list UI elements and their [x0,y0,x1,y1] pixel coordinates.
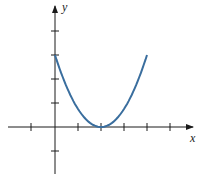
parabola-line [55,55,147,127]
y-axis-label: y [61,0,68,14]
chart: y x [0,0,199,176]
x-axis-label: x [189,131,196,145]
